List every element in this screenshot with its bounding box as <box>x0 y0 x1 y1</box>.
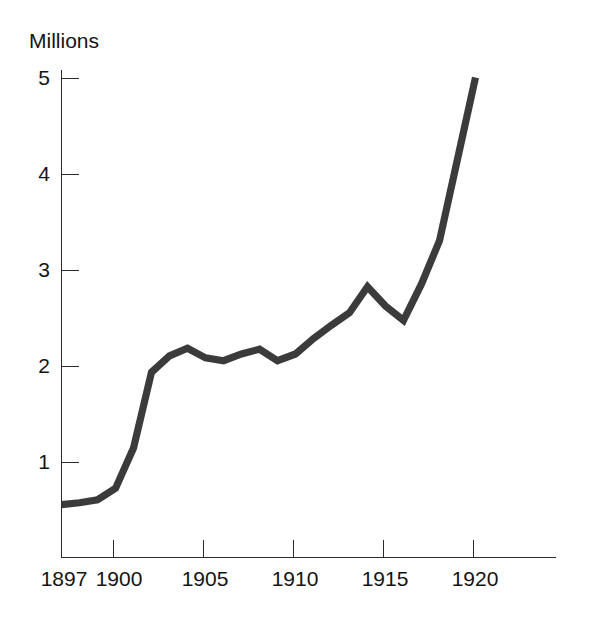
x-tick-label-1915: 1915 <box>362 567 409 590</box>
x-tick-label-1905: 1905 <box>182 567 229 590</box>
y-tick-label-2: 2 <box>38 354 50 377</box>
data-series-line <box>62 78 476 505</box>
y-tick-label-3: 3 <box>38 258 50 281</box>
x-tick-label-1897: 1897 <box>41 567 88 590</box>
y-axis-title: Millions <box>29 29 99 52</box>
chart-canvas: Millions 5 4 3 2 1 1897 1900 1905 1910 1… <box>0 0 593 617</box>
x-tick-label-1910: 1910 <box>272 567 319 590</box>
y-tick-label-5: 5 <box>38 66 50 89</box>
x-tick-label-1900: 1900 <box>96 567 143 590</box>
y-tick-label-4: 4 <box>38 162 50 185</box>
y-tick-label-1: 1 <box>38 450 50 473</box>
line-chart: Millions 5 4 3 2 1 1897 1900 1905 1910 1… <box>0 0 593 617</box>
x-tick-label-1920: 1920 <box>452 567 499 590</box>
